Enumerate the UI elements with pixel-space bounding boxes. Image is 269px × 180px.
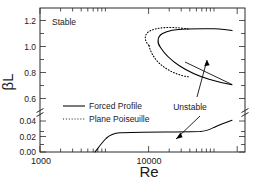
- figure-container: 1.2 1.0 0.8 0.6 0.04 0.02 0.00 1000 1000…: [0, 0, 269, 180]
- stable-label: Stable: [52, 17, 76, 27]
- y-tick-label-1-0: 1.0: [24, 42, 36, 52]
- y-tick-label-1-2: 1.2: [24, 16, 36, 26]
- legend-label-plane-poiseuille: Plane Poiseuille: [89, 114, 150, 124]
- x-tick-label-1000: 1000: [31, 156, 51, 166]
- unstable-label: Unstable: [173, 102, 207, 112]
- y-tick-label-0-02: 0.02: [19, 132, 36, 142]
- y-axis-title: βL: [0, 74, 16, 91]
- plot-frame: [40, 8, 245, 152]
- legend-label-forced-profile: Forced Profile: [89, 101, 142, 111]
- y-tick-label-0-8: 0.8: [24, 68, 36, 78]
- y-tick-label-0-6: 0.6: [24, 94, 36, 104]
- stability-diagram-chart: 1.2 1.0 0.8 0.6 0.04 0.02 0.00 1000 1000…: [0, 0, 269, 180]
- x-axis-title: Re: [139, 163, 158, 180]
- y-tick-label-0-04: 0.04: [19, 116, 36, 126]
- y-tick-labels: 1.2 1.0 0.8 0.6 0.04 0.02 0.00: [19, 16, 36, 158]
